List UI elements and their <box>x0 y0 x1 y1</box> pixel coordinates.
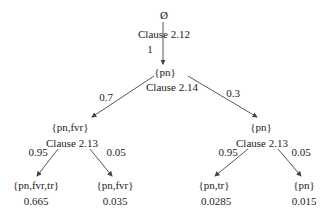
pn-right-node-label: {pn} <box>250 121 272 133</box>
leaf2-label: {pn,fvr} <box>96 179 133 191</box>
leaf1-value: 0.665 <box>24 195 49 207</box>
right-edge-prob: 0.3 <box>226 87 240 99</box>
leaf3-label: {pn,tr} <box>198 179 229 191</box>
pn-node-label: {pn} <box>154 66 176 78</box>
pn-right-rule-label: Clause 2.13 <box>236 137 288 149</box>
leaf2-edge-prob: 0.05 <box>106 146 125 158</box>
pnfvr-rule-label: Clause 2.13 <box>46 137 98 149</box>
leaf4-label: {pn} <box>293 179 315 191</box>
probability-tree-diagram: Ø Clause 2.12 1 {pn} Clause 2.14 0.7 0.3… <box>0 0 326 216</box>
root-edge-prob: 1 <box>147 43 153 55</box>
leaf4-edge-prob: 0.05 <box>291 146 310 158</box>
edge-pn-to-pn <box>188 76 257 117</box>
pnfvr-node-label: {pn,fvr} <box>51 121 88 133</box>
left-edge-prob: 0.7 <box>99 91 113 103</box>
leaf2-value: 0.035 <box>103 195 128 207</box>
leaf1-edge-prob: 0.95 <box>28 146 47 158</box>
root-rule-label: Clause 2.12 <box>138 28 190 40</box>
leaf4-value: 0.015 <box>292 195 317 207</box>
leaf3-value: 0.0285 <box>201 195 231 207</box>
leaf3-edge-prob: 0.95 <box>218 146 237 158</box>
root-node-label: Ø <box>160 9 168 21</box>
pn-rule-label: Clause 2.14 <box>146 81 198 93</box>
leaf1-label: {pn,fvr,tr} <box>13 179 59 191</box>
